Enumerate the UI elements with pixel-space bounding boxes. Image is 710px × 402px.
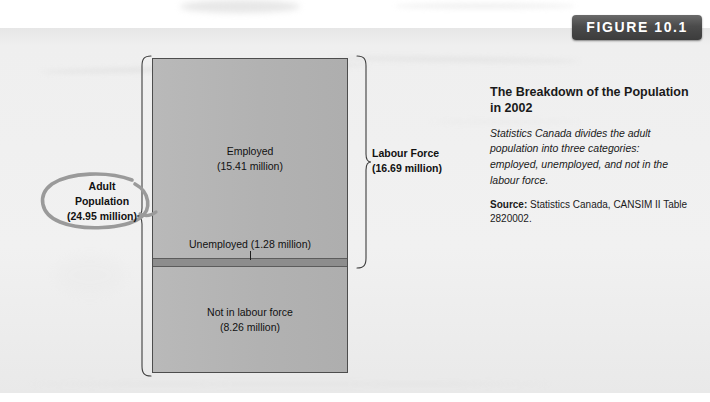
caption-block: The Breakdown of the Population in 2002 … [490,84,690,227]
employed-value: (15.41 million) [217,159,283,173]
caption-title: The Breakdown of the Population in 2002 [490,84,690,117]
population-bar: Employed (15.41 million) Not in labour f… [152,58,348,373]
adult-population-line3: (24.95 million) [46,209,158,224]
not-in-labour-force-value: (8.26 million) [207,320,293,334]
scan-smudge [395,3,575,9]
caption-source-label: Source: [490,199,527,210]
figure-page: FIGURE 10.1 Employed (15.41 million) Not… [0,0,710,402]
not-in-labour-force-label: Not in labour force [207,305,293,319]
caption-body: Statistics Canada divides the adult popu… [490,126,690,189]
bar-segment-not-in-labour-force: Not in labour force (8.26 million) [153,267,347,372]
figure-number-badge: FIGURE 10.1 [572,15,702,40]
adult-population-line1: Adult [46,179,158,194]
caption-source: Source: Statistics Canada, CANSIM II Tab… [490,198,690,227]
labour-force-value: (16.69 million) [372,161,442,176]
employed-label: Employed [217,144,283,158]
unemployed-label: Unemployed (1.28 million) [152,238,348,250]
scan-smudge [180,0,300,13]
labour-force-annotation: Labour Force (16.69 million) [372,146,442,175]
unemployed-leader-line [250,251,251,260]
bar-segment-employed: Employed (15.41 million) [153,59,347,258]
adult-population-text: Adult Population (24.95 million) [46,179,158,225]
adult-population-annotation: Adult Population (24.95 million) [36,170,166,232]
labour-force-name: Labour Force [372,146,442,161]
adult-population-line2: Population [46,194,158,209]
